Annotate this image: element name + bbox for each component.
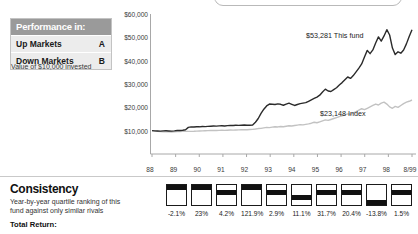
quartile-box <box>391 184 412 206</box>
annual-return-value: -13.8% <box>366 210 387 217</box>
quartile-box <box>166 184 187 206</box>
y-axis-tick-label: $50,000 <box>124 34 148 41</box>
y-axis-tick-label: $60,000 <box>124 11 148 18</box>
series-label-index: $23,148 Index <box>320 109 366 118</box>
x-axis-tick-label: 98 <box>383 166 390 173</box>
x-axis-tick-label: 93 <box>265 166 272 173</box>
performance-row-up-markets: Up Markets A <box>11 35 111 52</box>
x-axis-tick-label: 92 <box>241 166 248 173</box>
quartile-box <box>216 184 237 206</box>
quartile-bar <box>292 195 311 200</box>
performance-row-label: Up Markets <box>16 39 62 49</box>
x-axis-tick-label: 8/99 <box>404 166 417 173</box>
quartile-box <box>341 184 362 206</box>
x-axis-tick-label: 89 <box>170 166 177 173</box>
quartile-bar <box>342 190 361 195</box>
series-label-fund: $53,281 This fund <box>306 31 363 40</box>
x-axis-tick-label: 94 <box>288 166 295 173</box>
quartile-box <box>191 184 212 206</box>
quartile-bar <box>267 190 286 195</box>
chart-plot-area <box>150 14 416 162</box>
annual-return-value: 20.4% <box>341 210 362 217</box>
x-axis-tick-label: 90 <box>194 166 201 173</box>
growth-chart: $60,000$50,000$40,000$30,000$20,000$10,0… <box>108 14 418 172</box>
y-axis-tick-label: $10,000 <box>124 127 148 134</box>
performance-box-header: Performance in: <box>11 19 111 35</box>
quartile-bar <box>367 200 386 205</box>
y-axis-labels: $60,000$50,000$40,000$30,000$20,000$10,0… <box>108 14 148 154</box>
quartile-box <box>366 184 387 206</box>
y-axis-tick-label: $40,000 <box>124 57 148 64</box>
quartile-bar <box>242 185 261 190</box>
quartile-box <box>316 184 337 206</box>
annual-return-value: 31.7% <box>316 210 337 217</box>
annual-return-value: 2.9% <box>266 210 287 217</box>
x-axis-tick-label: 91 <box>217 166 224 173</box>
section-divider <box>0 176 418 177</box>
annual-return-value: 4.2% <box>216 210 237 217</box>
quartile-box <box>266 184 287 206</box>
performance-row-grade: A <box>99 39 105 49</box>
quartile-bar <box>167 185 186 190</box>
x-axis-tick-label: 95 <box>312 166 319 173</box>
chart-svg <box>150 14 416 162</box>
annual-return-value: 121.9% <box>241 210 262 217</box>
fund-performance-panel: Performance in: Up Markets A Down Market… <box>0 0 418 234</box>
annual-return-row: -2.1%23%4.2%121.9%2.9%11.1%31.7%20.4%-13… <box>166 210 412 217</box>
annual-return-value: 11.1% <box>291 210 312 217</box>
x-axis-tick-label: 97 <box>359 166 366 173</box>
x-axis-tick-label: 96 <box>335 166 342 173</box>
quartile-bar <box>192 185 211 190</box>
y-axis-tick-label: $30,000 <box>124 81 148 88</box>
x-axis-tick-label: 88 <box>146 166 153 173</box>
annual-return-value: 23% <box>191 210 212 217</box>
quartile-box <box>291 184 312 206</box>
total-return-label: Total Return: <box>10 220 160 229</box>
annual-return-value: -2.1% <box>166 210 187 217</box>
quartile-bar <box>217 190 236 195</box>
series-line-this-fund <box>152 30 412 131</box>
quartile-bar <box>317 190 336 195</box>
annual-return-value: 1.5% <box>391 210 412 217</box>
top-tab-stub <box>214 0 402 6</box>
quartile-box <box>241 184 262 206</box>
y-axis-tick-label: $20,000 <box>124 104 148 111</box>
performance-box-note: Value of $10,000 invested <box>11 63 91 70</box>
consistency-subtitle: Year-by-year quartile ranking of this fu… <box>10 197 130 215</box>
quartile-box-row <box>166 184 412 206</box>
consistency-title: Consistency <box>10 182 160 196</box>
quartile-bar <box>392 190 411 195</box>
performance-row-grade: B <box>99 56 105 66</box>
consistency-section: Consistency Year-by-year quartile rankin… <box>10 182 160 229</box>
